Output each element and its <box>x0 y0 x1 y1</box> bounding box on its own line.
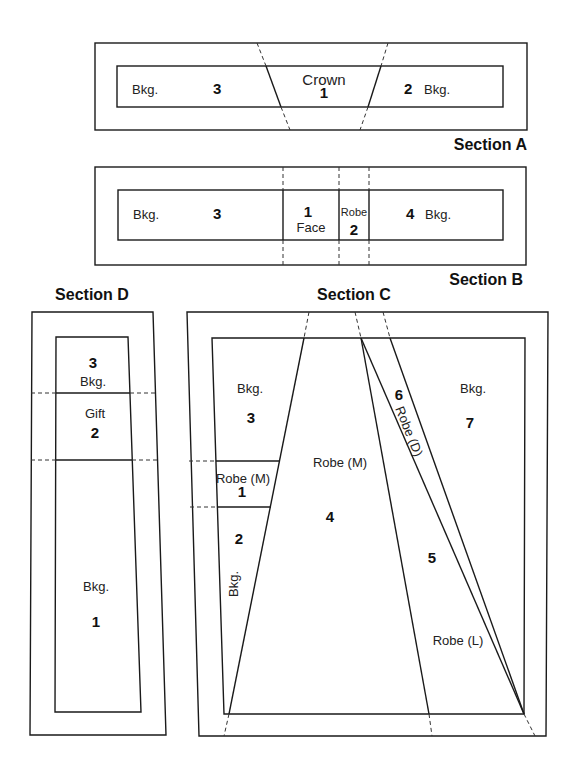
section-c-ext-center-bottom <box>429 714 432 736</box>
section-a-seam-left <box>266 66 281 107</box>
piece-b2-number: 2 <box>350 221 358 238</box>
piece-c2-number: 2 <box>235 530 243 547</box>
piece-c6-label: Robe (D) <box>392 404 426 459</box>
piece-c6-number: 6 <box>395 386 403 403</box>
piece-d3-number: 3 <box>89 354 97 371</box>
section-c-seam-robe-d <box>390 338 524 714</box>
piece-d1-label: Bkg. <box>83 579 109 594</box>
section-a-seam-right-ext-bottom <box>360 107 368 130</box>
pattern-diagram: Bkg. 3 Crown 1 2 Bkg. Section A Bkg. 3 1… <box>0 0 572 773</box>
piece-c3-number: 3 <box>247 409 255 426</box>
piece-c2-label: Bkg. <box>226 571 241 597</box>
piece-b2-label: Robe <box>341 206 367 218</box>
section-c: Section C Bkg. 3 Robe (M) 1 2 Bkg. Robe … <box>187 286 548 736</box>
section-c-ext-robe-d-top <box>383 312 390 338</box>
piece-a2-label: Bkg. <box>424 82 450 97</box>
piece-b4-label: Bkg. <box>425 207 451 222</box>
section-a-seam-right-ext-top <box>381 43 388 66</box>
piece-c7-label: Bkg. <box>460 381 486 396</box>
piece-d2-label: Gift <box>85 406 106 421</box>
section-a-seam-right <box>368 66 381 107</box>
section-a: Bkg. 3 Crown 1 2 Bkg. Section A <box>95 43 527 153</box>
piece-c5-label: Robe (L) <box>433 633 484 648</box>
piece-a3-label: Bkg. <box>132 82 158 97</box>
piece-b3-label: Bkg. <box>133 207 159 222</box>
section-d: Section D 3 Bkg. Gift 2 Bkg. 1 <box>30 286 166 735</box>
piece-d1-number: 1 <box>92 613 100 630</box>
section-a-seam-left-ext-top <box>257 43 266 66</box>
section-c-ext-left-bottom <box>224 714 229 736</box>
section-a-seam-left-ext-bottom <box>281 107 290 130</box>
section-c-title: Section C <box>317 286 391 303</box>
piece-c4-number: 4 <box>326 508 335 525</box>
piece-a3-number: 3 <box>213 80 221 97</box>
piece-b1-number: 1 <box>304 203 312 220</box>
piece-a1-number: 1 <box>320 84 328 101</box>
piece-c1-number: 1 <box>238 483 246 500</box>
piece-c7-number: 7 <box>466 414 474 431</box>
piece-b4-number: 4 <box>406 205 415 222</box>
section-a-title: Section A <box>454 136 528 153</box>
section-d-title: Section D <box>55 286 129 303</box>
piece-b1-label: Face <box>297 220 326 235</box>
section-c-ext-left-top <box>304 312 309 338</box>
section-c-seam-robe-l <box>361 338 524 714</box>
piece-d3-label: Bkg. <box>80 374 106 389</box>
piece-c5-number: 5 <box>428 549 436 566</box>
section-c-ext-corner-bottom <box>524 714 535 736</box>
section-c-ext-center-top <box>355 312 361 338</box>
piece-d2-number: 2 <box>91 424 99 441</box>
piece-a2-number: 2 <box>404 80 412 97</box>
piece-c3-label: Bkg. <box>237 381 263 396</box>
section-b-title: Section B <box>449 271 523 288</box>
piece-b3-number: 3 <box>213 205 221 222</box>
piece-c4-label: Robe (M) <box>313 455 367 470</box>
section-b: Bkg. 3 1 Face Robe 2 4 Bkg. Section B <box>95 167 526 288</box>
